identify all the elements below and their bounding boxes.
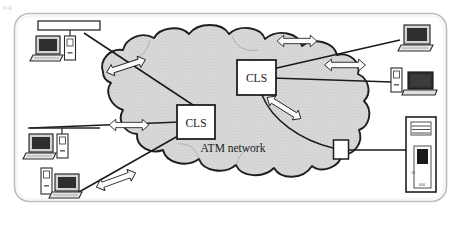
tower-mid-right <box>391 68 402 92</box>
cls-box-right-label: CLS <box>246 72 267 84</box>
server-tower-mark-000: 000 <box>419 182 425 187</box>
figure-canvas: p.g ATM network <box>0 0 461 229</box>
host-mid-right[interactable] <box>391 68 437 95</box>
edge-connector-box[interactable] <box>334 140 349 159</box>
server-tower-mark-18: 18 <box>411 170 415 175</box>
cls-box-right[interactable]: CLS <box>237 60 276 95</box>
cls-box-left[interactable]: CLS <box>177 105 215 139</box>
cls-box-left-label: CLS <box>185 117 206 129</box>
network-diagram: p.g ATM network <box>0 0 461 229</box>
tower-top-left <box>65 36 76 60</box>
corner-scan-artifact: p.g <box>3 3 12 11</box>
atm-network-label: ATM network <box>201 142 266 154</box>
tower-bottom-left <box>41 168 52 194</box>
server-tower[interactable]: 18 000 <box>406 117 436 192</box>
tower-mid-left <box>57 134 68 158</box>
